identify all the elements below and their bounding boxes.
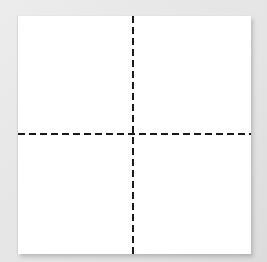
paper-card xyxy=(18,16,251,254)
vertical-dashed-line xyxy=(132,16,134,254)
horizontal-dashed-line xyxy=(18,133,251,135)
